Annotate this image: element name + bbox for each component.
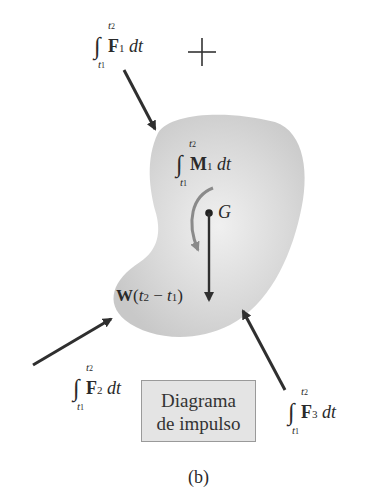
- box-line-1: Diagrama: [142, 389, 255, 412]
- figure-caption: (b): [188, 468, 209, 486]
- plus-sign-icon: [188, 38, 216, 66]
- force-f3-arrow: [243, 311, 285, 390]
- force-f2-arrow: [33, 319, 111, 365]
- impulse-diagram: ∫ t2 t1 F1 dt ∫ t2 t1 M1 dt G W(t2 − t1)…: [0, 0, 369, 492]
- impulse-f3-label: ∫ t2 t1 F3 dt: [288, 386, 368, 438]
- upper-limit: t2: [108, 20, 115, 31]
- force-f1-arrow: [124, 70, 155, 129]
- lower-limit: t1: [98, 59, 105, 70]
- box-line-2: de impulso: [142, 412, 255, 435]
- impulse-f1-label: ∫ t2 t1 F1 dt: [94, 20, 164, 72]
- weight-impulse-label: W(t2 − t1): [116, 287, 183, 304]
- impulse-f2-label: ∫ t2 t1 F2 dt: [73, 362, 143, 414]
- center-of-mass-label: G: [218, 203, 231, 221]
- diagram-title-box: Diagrama de impulso: [141, 380, 256, 442]
- impulse-m1-label: ∫ t2 t1 M1 dt: [176, 138, 256, 190]
